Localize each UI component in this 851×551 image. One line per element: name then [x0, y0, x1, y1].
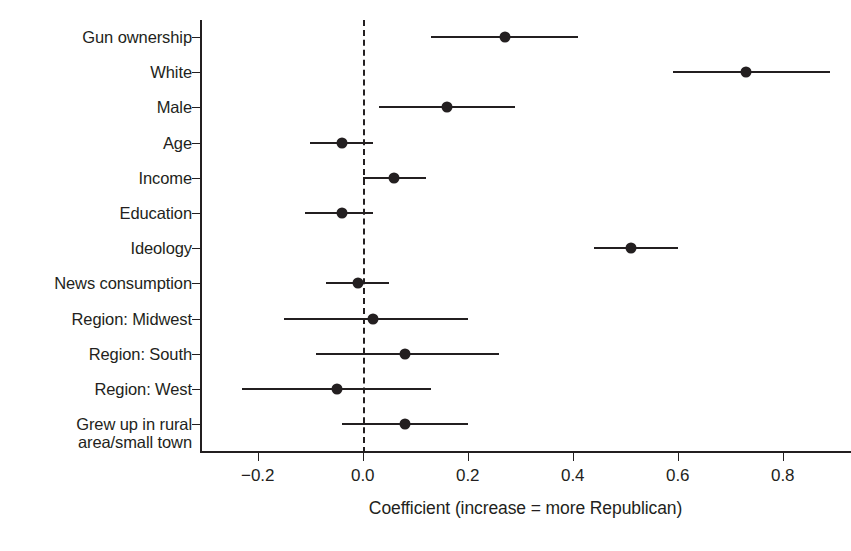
x-axis-tick: [258, 453, 259, 461]
coefficient-point: [331, 384, 342, 395]
coefficient-point: [336, 208, 347, 219]
x-axis-tick-label: 0.8: [771, 466, 795, 485]
y-axis-tick-label: Male: [0, 98, 192, 116]
y-axis-tick: [192, 213, 200, 214]
x-axis-tick: [468, 453, 469, 461]
x-axis-tick-label: 0.6: [666, 466, 690, 485]
coefficient-point: [368, 313, 379, 324]
y-axis-tick: [192, 72, 200, 73]
y-axis-tick-label: Age: [0, 134, 192, 152]
x-axis-tick: [363, 453, 364, 461]
coefficient-point: [441, 102, 452, 113]
y-axis-tick-label: Education: [0, 204, 192, 222]
y-axis-tick: [192, 354, 200, 355]
x-axis-tick: [573, 453, 574, 461]
y-axis-tick: [192, 389, 200, 390]
y-axis-tick-label: Income: [0, 169, 192, 187]
coefficient-point: [399, 348, 410, 359]
coefficient-point: [399, 419, 410, 430]
y-axis-tick-label: White: [0, 63, 192, 81]
coefficient-point: [625, 243, 636, 254]
y-axis-tick: [192, 424, 200, 425]
coefficient-plot-figure: Gun ownershipWhiteMaleAgeIncomeEducation…: [0, 0, 851, 551]
y-axis-tick: [192, 283, 200, 284]
x-axis-tick-label: 0.2: [456, 466, 480, 485]
y-axis-tick-label: Grew up in rural area/small town: [0, 415, 192, 451]
y-axis-tick: [192, 143, 200, 144]
y-axis-tick: [192, 178, 200, 179]
x-axis-tick: [678, 453, 679, 461]
y-axis-tick-label: News consumption: [0, 274, 192, 292]
y-axis-tick-label: Gun ownership: [0, 28, 192, 46]
y-axis-tick: [192, 107, 200, 108]
x-axis-tick-label: 0.4: [561, 466, 585, 485]
coefficient-point: [389, 172, 400, 183]
x-axis-title: Coefficient (increase = more Republican): [200, 498, 851, 519]
x-axis-tick-label: −0.2: [241, 466, 275, 485]
coefficient-point: [352, 278, 363, 289]
y-axis-tick-label: Region: Midwest: [0, 310, 192, 328]
coefficient-point: [741, 67, 752, 78]
coefficient-point: [336, 137, 347, 148]
x-axis-tick: [783, 453, 784, 461]
x-axis-tick-label: 0.0: [351, 466, 375, 485]
y-axis-tick: [192, 37, 200, 38]
y-axis-tick-label: Region: West: [0, 380, 192, 398]
y-axis-tick-label: Ideology: [0, 239, 192, 257]
y-axis-tick: [192, 248, 200, 249]
coefficient-point: [499, 32, 510, 43]
y-axis-labels: Gun ownershipWhiteMaleAgeIncomeEducation…: [0, 20, 192, 453]
y-axis-tick-label: Region: South: [0, 345, 192, 363]
y-axis-tick: [192, 319, 200, 320]
